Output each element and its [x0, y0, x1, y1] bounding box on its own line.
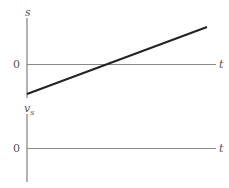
- position-graph: s 0 t: [13, 6, 224, 98]
- position-line: [27, 27, 207, 94]
- velocity-graph: vs 0 t: [13, 102, 224, 182]
- vs-axis-label: vs: [24, 102, 34, 117]
- motion-graphs: s 0 t vs 0 t: [0, 0, 229, 188]
- t-axis-label-bottom: t: [219, 142, 224, 155]
- zero-label-bottom: 0: [13, 142, 20, 155]
- t-axis-label-top: t: [219, 58, 224, 71]
- zero-label-top: 0: [13, 58, 20, 71]
- s-axis-label: s: [25, 6, 31, 19]
